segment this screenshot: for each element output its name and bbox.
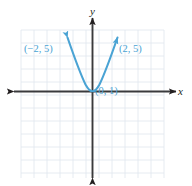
- y-axis-label: y: [90, 6, 95, 17]
- point-label-left: (−2, 5): [24, 44, 53, 55]
- point-label-vertex: (0, 1): [95, 86, 118, 97]
- point-label-right: (2, 5): [119, 44, 142, 55]
- parabola-graph-figure: x y (−2, 5) (2, 5) (0, 1): [0, 0, 192, 186]
- x-axis-label: x: [178, 86, 183, 97]
